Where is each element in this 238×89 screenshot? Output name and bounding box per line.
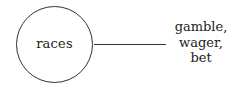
- connector-line: [94, 44, 166, 45]
- target-line-3: bet: [168, 50, 234, 66]
- node-races: races: [16, 6, 93, 83]
- target-line-1: gamble,: [168, 19, 234, 35]
- node-label: races: [36, 36, 73, 51]
- target-text: gamble, wager, bet: [168, 19, 234, 66]
- target-line-2: wager,: [168, 35, 234, 51]
